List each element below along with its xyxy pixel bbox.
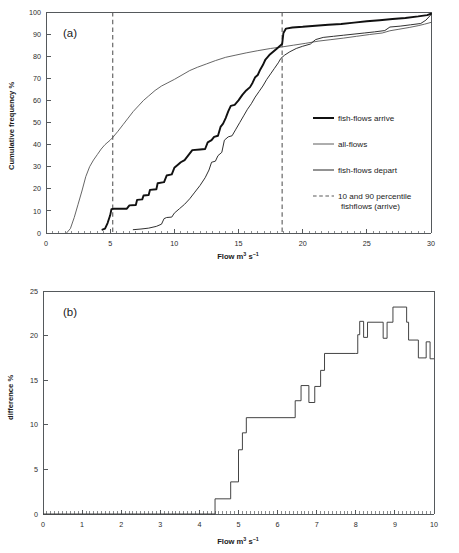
panel-b-ytick-label: 10 — [30, 420, 38, 429]
panel-b-svg: 0123456789100510152025 (b) difference % … — [0, 272, 459, 553]
panel-b-ytick-label: 0 — [34, 510, 38, 519]
legend-label-2: fish-flows depart — [338, 166, 398, 175]
panel-b-ytick-label: 5 — [34, 465, 38, 474]
panel-a-ytick-label: 20 — [33, 184, 41, 193]
panel-b-ytick-label: 25 — [30, 287, 38, 296]
panel-a-xtick-label: 15 — [235, 239, 243, 248]
panel-a-xtick-label: 30 — [427, 239, 435, 248]
panel-b-xtick-label: 2 — [119, 520, 123, 529]
panel-b-xtick-label: 4 — [197, 520, 201, 529]
panel-a-xlabel: Flow m3 s−1 — [217, 251, 259, 261]
panel-b-xtick-label: 10 — [430, 520, 438, 529]
panel-a-ytick-label: 80 — [33, 52, 41, 61]
panel-a-cumulative-frequency: 0510152025300102030405060708090100 (a) C… — [0, 0, 459, 272]
panel-a-ytick-label: 60 — [33, 96, 41, 105]
panel-a-xlabel-base: Flow m — [217, 252, 243, 261]
legend-label-1: all-flows — [338, 140, 367, 149]
panel-b-tag: (b) — [63, 306, 77, 318]
panel-a-ylabel: Cumulative frequency % — [7, 82, 16, 170]
panel-a-ytick-label: 0 — [37, 229, 41, 238]
panel-b-xlabel-sup2: −1 — [253, 536, 259, 542]
panel-b-xtick-label: 8 — [354, 520, 358, 529]
panel-b-xlabel-base: Flow m — [217, 537, 243, 546]
figure-container: 0510152025300102030405060708090100 (a) C… — [0, 0, 459, 553]
panel-a-ytick-label: 40 — [33, 140, 41, 149]
panel-a-tag: (a) — [63, 27, 77, 39]
panel-b-xtick-label: 9 — [393, 520, 397, 529]
panel-a-xtick-label: 10 — [170, 239, 178, 248]
panel-b-xtick-label: 0 — [41, 520, 45, 529]
panel-b-xtick-label: 3 — [158, 520, 162, 529]
panel-a-ytick-label: 70 — [33, 74, 41, 83]
panel-b-xtick-label: 6 — [276, 520, 280, 529]
panel-a-ytick-label: 10 — [33, 207, 41, 216]
panel-a-svg: 0510152025300102030405060708090100 (a) C… — [0, 0, 459, 272]
panel-a-xtick-label: 0 — [44, 239, 48, 248]
panel-b-ylabel: difference % — [6, 375, 15, 420]
legend-label-3: 10 and 90 percentile — [338, 192, 412, 201]
panel-b-xtick-label: 5 — [237, 520, 241, 529]
panel-a-xtick-label: 5 — [108, 239, 112, 248]
panel-b-difference: 0123456789100510152025 (b) difference % … — [0, 272, 459, 553]
panel-a-xtick-label: 25 — [363, 239, 371, 248]
legend-label-3-line2: fishflows (arrive) — [341, 202, 400, 211]
panel-b-series-group — [43, 307, 434, 514]
panel-a-ytick-label: 50 — [33, 118, 41, 127]
panel-b-xlabel: Flow m3 s−1 — [217, 536, 259, 546]
panel-b-tick-labels: 0123456789100510152025 — [30, 287, 438, 529]
legend-label-0: fish-flows arrive — [338, 114, 395, 123]
panel-b-xtick-label: 1 — [80, 520, 84, 529]
panel-a-ytick-label: 30 — [33, 162, 41, 171]
panel-a-xlabel-sup2: −1 — [253, 251, 259, 257]
panel-b-xtick-label: 7 — [315, 520, 319, 529]
panel-b-ytick-label: 15 — [30, 376, 38, 385]
panel-a-xtick-label: 20 — [299, 239, 307, 248]
panel-a-legend: fish-flows arriveall-flowsfish-flows dep… — [313, 114, 412, 211]
panel-b-ytick-label: 20 — [30, 331, 38, 340]
panel-a-ytick-label: 100 — [29, 8, 41, 17]
panel-b-series-difference — [43, 307, 434, 514]
panel-a-ytick-label: 90 — [33, 30, 41, 39]
panel-a-tick-labels: 0510152025300102030405060708090100 — [29, 8, 435, 248]
